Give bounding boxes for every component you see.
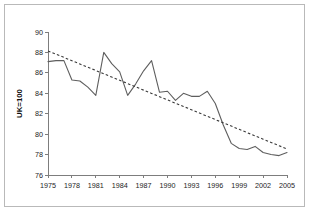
x-tick-label: 1993 — [183, 181, 199, 190]
x-tick-label: 1990 — [160, 181, 176, 190]
y-axis-group: 7678808284868890 — [35, 28, 48, 180]
plot-series-group — [48, 51, 287, 156]
line-chart: 7678808284868890 19751978198119841987199… — [5, 5, 306, 208]
x-tick-label: 1999 — [231, 181, 247, 190]
y-tick-label: 76 — [35, 171, 43, 180]
x-tick-label: 1978 — [64, 181, 80, 190]
x-tick-label: 1987 — [136, 181, 152, 190]
y-tick-label: 84 — [35, 89, 43, 98]
y-tick-label: 78 — [35, 150, 43, 159]
y-axis-title: UK=100 — [15, 88, 24, 117]
x-tick-label: 1996 — [207, 181, 223, 190]
x-tick-label: 1975 — [40, 181, 56, 190]
x-tick-label: 1984 — [112, 181, 128, 190]
y-tick-label: 88 — [35, 48, 43, 57]
trend-line-path — [48, 51, 287, 149]
data-line-path — [48, 52, 287, 155]
chart-frame: 7678808284868890 19751978198119841987199… — [4, 4, 305, 207]
x-tick-label: 2005 — [279, 181, 295, 190]
y-tick-label: 90 — [35, 28, 43, 37]
x-tick-label: 1981 — [88, 181, 104, 190]
y-tick-label: 82 — [35, 109, 43, 118]
x-tick-label: 2002 — [255, 181, 271, 190]
y-tick-label: 86 — [35, 68, 43, 77]
y-tick-label: 80 — [35, 130, 43, 139]
x-axis-group: 1975197819811984198719901993199619992002… — [40, 175, 295, 190]
